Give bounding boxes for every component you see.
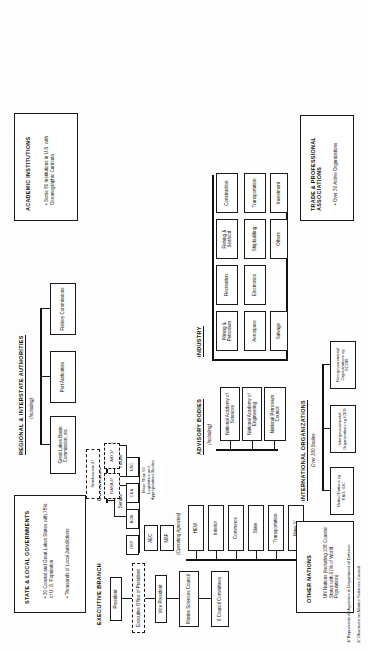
academic-bullet-0: • Some 80 Institutions in U.S. with Ocea…	[44, 119, 55, 205]
footnote-2: 2/ Observers on Marine Sciences Council	[356, 566, 361, 643]
observer-nasa[interactable]: NASA 2/	[104, 473, 120, 499]
advisory-subtitle: (Including)	[207, 424, 212, 445]
industry-box-salvage[interactable]: Salvage	[270, 311, 288, 351]
industry-bus-top	[212, 175, 214, 361]
academic-bullet-0-text: Some 80 Institutions in U.S. with Oceano…	[44, 136, 55, 205]
industry-box-shipbuilding[interactable]: Shipbuilding	[244, 219, 266, 259]
dept-transportation[interactable]: Transportation	[268, 505, 284, 551]
industry-title: INDUSTRY	[196, 326, 204, 357]
advisory-spine	[216, 449, 278, 451]
advisory-box-1[interactable]: National Academy of Engineering	[242, 387, 262, 441]
dept-tick-0	[196, 551, 197, 561]
advisory-tick-0	[230, 441, 231, 451]
industry-box-others[interactable]: Others	[270, 219, 288, 259]
advisory-title: ADVISORY BODIES	[196, 399, 204, 455]
vp-to-council	[167, 598, 179, 599]
executive-president[interactable]: President	[110, 577, 122, 621]
international-box-2[interactable]: Non-governmental Organizations eg SCOR	[330, 341, 356, 389]
dept-interior[interactable]: Interior	[208, 505, 224, 551]
advisory-tick-1	[252, 441, 253, 451]
observer-aid[interactable]: AID 2/	[104, 443, 120, 469]
operating-agencies-label: (Operating Agencies)	[176, 513, 181, 555]
industry-box-electronics[interactable]: Electronics	[244, 265, 266, 305]
regional-box-0[interactable]: Great Lakes Basin Commission, etc.	[50, 416, 76, 474]
international-drop-0	[322, 490, 330, 491]
industry-box-aerospace[interactable]: Aerospace	[244, 311, 266, 351]
international-drop-1	[322, 428, 330, 429]
independent-nsf[interactable]: NSF	[160, 525, 174, 551]
dept-spine	[186, 559, 264, 561]
international-title: INTERNATIONAL ORGANIZATIONS	[300, 400, 308, 501]
regional-box-1[interactable]: Port Authorities	[50, 351, 76, 403]
congress-drop-senate	[106, 500, 114, 501]
pres-to-eop	[122, 598, 132, 599]
observer-smithsonian[interactable]: Smithsonian 2/	[86, 449, 100, 499]
eop-agency-bus	[139, 457, 140, 553]
executive-committees[interactable]: 6 Council Committees	[211, 571, 229, 627]
regional-drop-2	[40, 308, 50, 309]
international-drop-2	[322, 364, 330, 365]
regional-drop-0	[40, 444, 50, 445]
executive-title: EXECUTIVE BRANCH	[96, 563, 102, 625]
industry-box-transportation[interactable]: Transportation	[244, 173, 266, 213]
regional-box-2[interactable]: Fishery Commissions	[50, 283, 76, 335]
dept-tick-2	[236, 551, 237, 561]
dept-tick-1	[216, 551, 217, 561]
dept-commerce[interactable]: Commerce	[228, 505, 244, 551]
page-root: STATE & LOCAL GOVERNMENTS • 30 Coastal a…	[0, 0, 368, 651]
eop-agency-ost[interactable]: OST	[126, 535, 139, 555]
industry-spine	[212, 359, 286, 361]
other-nations-bullet-0: UN Nations (Including 108 Coastal States…	[323, 526, 340, 598]
international-box-1[interactable]: Intergovernmental Organizations eg ICES	[330, 405, 356, 453]
panel-academic: ACADEMIC INSTITUTIONS • Some 80 Institut…	[14, 113, 78, 221]
panel-trade: TRADE & PROFESSIONAL ASSOCIATIONS • Over…	[300, 115, 354, 221]
advisory-box-2[interactable]: National Petroleum Council	[264, 387, 286, 441]
international-box-0[interactable]: United Nations eg FAO, IOC	[330, 467, 354, 515]
eop-to-vp	[145, 598, 155, 599]
dept-spine-lower	[264, 559, 296, 561]
dept-state[interactable]: State	[248, 505, 264, 551]
state-local-bullet-1: • Thousands of Local Jurisdictions	[65, 502, 71, 598]
regional-title: REGIONAL & INTERSTATE AUTHORITIES	[18, 335, 26, 455]
advisory-tick-2	[274, 441, 275, 451]
org-chart-sheet: STATE & LOCAL GOVERNMENTS • 30 Coastal a…	[0, 0, 368, 651]
trade-title: TRADE & PROFESSIONAL ASSOCIATIONS	[310, 123, 322, 211]
dept-hew[interactable]: HEW	[188, 505, 204, 551]
dept-tick-3	[256, 551, 257, 561]
regional-subtitle: (Including)	[29, 398, 34, 419]
eop-agency-nsc[interactable]: NSC	[126, 457, 139, 477]
industry-box-recreation[interactable]: Recreation	[216, 265, 238, 305]
state-local-bullet-0-text: 30 Coastal and Great Lakes States with 7…	[43, 504, 54, 598]
other-nations-title: OTHER NATIONS	[306, 555, 312, 603]
executive-eop[interactable]: Executive Office of President	[132, 563, 145, 633]
executive-council[interactable]: Marine Sciences Council	[179, 571, 199, 627]
trade-bullet-0: • Over 30 Active Organizations	[333, 121, 339, 205]
executive-vp[interactable]: Vice President	[155, 575, 167, 623]
international-subtitle: Over 100 Bodies	[311, 433, 316, 467]
trade-bullet-0-text: Over 30 Active Organizations	[333, 143, 338, 203]
state-local-title: STATE & LOCAL GOVERNMENTS	[24, 511, 30, 604]
other-nations-bullet-0-text: UN Nations (Including 108 Coastal States…	[323, 528, 339, 598]
regional-bus	[40, 309, 42, 445]
industry-box-construction[interactable]: Construction	[216, 173, 238, 213]
advisory-box-0[interactable]: National Academy of Sciences	[220, 387, 240, 441]
regional-drop-1	[40, 376, 50, 377]
state-local-bullet-0: • 30 Coastal and Great Lakes States with…	[43, 502, 54, 598]
industry-box-investment[interactable]: Investment	[270, 173, 288, 213]
industry-box-fishing[interactable]: Fishing & Seafood	[216, 219, 238, 259]
industry-box-mining[interactable]: Mining & Petroleum	[216, 311, 238, 351]
state-local-bullet-1-text: Thousands of Local Jurisdictions	[65, 529, 70, 596]
eop-agency-bob[interactable]: BOB	[126, 509, 139, 529]
academic-title: ACADEMIC INSTITUTIONS	[25, 137, 31, 211]
independent-aec[interactable]: AEC	[144, 525, 158, 551]
eop-agency-cea[interactable]: CEA	[126, 483, 139, 503]
panel-state-local: STATE & LOCAL GOVERNMENTS • 30 Coastal a…	[14, 495, 86, 613]
council-to-committees	[199, 598, 211, 599]
footnote-1: 1/ Represents all Agencies in Department…	[346, 545, 351, 643]
